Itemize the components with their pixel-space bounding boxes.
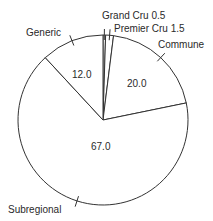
slice-value-generic: 12.0 <box>72 69 92 80</box>
slice-label-grand-cru: Grand Cru 0.5 <box>102 10 166 21</box>
slice-value-commune: 20.0 <box>127 78 147 89</box>
slice-label-generic: Generic <box>26 27 61 38</box>
slice-label-subregional: Subregional <box>8 204 61 215</box>
slice-value-subregional: 67.0 <box>91 141 111 152</box>
pie-slices <box>18 35 188 205</box>
slice-label-premier-cru: Premier Cru 1.5 <box>114 23 185 34</box>
slice-label-commune: Commune <box>158 39 205 50</box>
pie-chart: Grand Cru 0.5 Premier Cru 1.5 Commune Ge… <box>0 0 213 221</box>
